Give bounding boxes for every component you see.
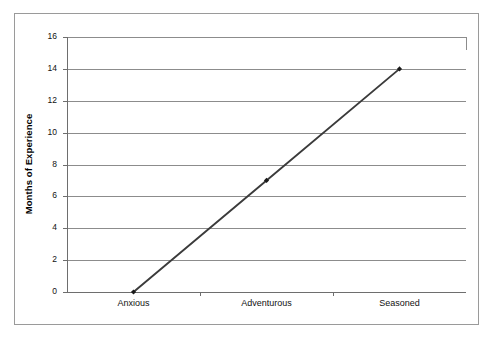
y-axis-tick-label: 14: [17, 64, 57, 73]
y-axis-tick-mark: [63, 133, 67, 134]
x-axis-tick-mark: [200, 292, 201, 296]
y-axis-tick-label: 12: [17, 96, 57, 105]
y-axis-tick-mark: [63, 196, 67, 197]
y-axis-tick-label: 2: [17, 255, 57, 264]
x-axis-tick-mark: [333, 292, 334, 296]
y-axis-tick-label: 10: [17, 128, 57, 137]
y-axis-tick-label: 8: [17, 160, 57, 169]
x-axis-category-label: Adventurous: [207, 297, 327, 309]
x-axis-category-label: Anxious: [74, 297, 194, 309]
y-axis-tick-mark: [63, 165, 67, 166]
y-axis-tick-label: 6: [17, 191, 57, 200]
data-series-line: [0, 0, 493, 340]
x-axis-category-label: Seasoned: [340, 297, 460, 309]
y-axis-tick-mark: [63, 260, 67, 261]
y-axis-tick-label: 16: [17, 32, 57, 41]
y-axis-tick-mark: [63, 37, 67, 38]
y-axis-tick-mark: [63, 101, 67, 102]
y-axis-tick-label: 0: [17, 287, 57, 296]
y-axis-tick-mark: [63, 228, 67, 229]
y-axis-tick-mark: [63, 69, 67, 70]
y-axis-tick-label: 4: [17, 223, 57, 232]
y-axis-tick-mark: [63, 292, 67, 293]
